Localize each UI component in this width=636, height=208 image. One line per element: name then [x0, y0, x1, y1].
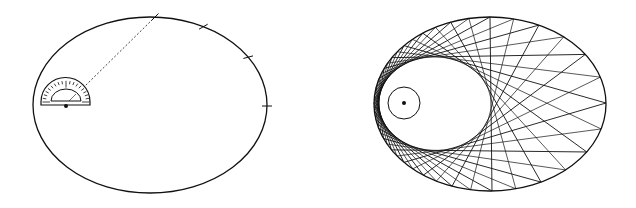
chord-line [404, 103, 606, 162]
chord-line [490, 17, 492, 191]
left-ellipse-figure [33, 14, 272, 193]
protractor-tick [43, 98, 46, 99]
chord-line [375, 115, 436, 181]
chord-line [452, 25, 539, 186]
chord-line [381, 19, 513, 74]
chord-line [375, 27, 435, 91]
chord-line [377, 124, 471, 190]
chord-line [471, 19, 514, 190]
focus-dot [64, 104, 68, 108]
chord-line [412, 39, 601, 129]
diagram-canvas [0, 0, 636, 208]
right-string-art-figure [374, 17, 606, 191]
chord-line [381, 133, 516, 189]
focus-dot [402, 101, 406, 105]
chord-line [469, 18, 516, 188]
protractor-tick [86, 98, 89, 99]
chord-line [436, 37, 563, 181]
